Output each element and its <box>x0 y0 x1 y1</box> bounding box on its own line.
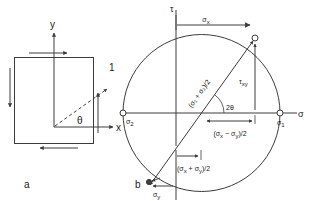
angle-theta-label: θ <box>77 115 83 126</box>
two-theta-arc <box>215 95 224 113</box>
direction-1-label: 1 <box>109 62 115 73</box>
axis-tau-label: τ <box>170 4 174 14</box>
point-stress-x-marker <box>252 35 258 41</box>
point-sigma1-label: σ1 <box>277 119 285 128</box>
point-sigma2-label: σ2 <box>126 118 134 127</box>
radius-label: (σx − σy)/2 <box>213 130 246 139</box>
axis-x-label: x <box>116 122 121 133</box>
mean-stress-label: (σ₁ + σ₂)/2 <box>187 78 212 109</box>
two-theta-label: 2θ <box>226 104 234 111</box>
panel-b-caption: b <box>135 179 141 190</box>
point-sigma2-marker <box>120 110 126 116</box>
axis-y-label: y <box>50 19 55 30</box>
point-sigma1-marker <box>277 110 283 116</box>
sigma-y-label: σy <box>153 191 160 200</box>
center-label: (σx + σy)/2 <box>177 165 210 174</box>
figure-canvas: y x θ 1 a τ σ σ2 σ1 <box>0 0 311 201</box>
sigma-y-pointer-arrow <box>152 178 160 181</box>
axis-sigma-label: σ <box>298 109 304 119</box>
panel-b-group: τ σ σ2 σ1 σx τxy (σ₁ + σ₂)/2 2θ <box>120 4 304 200</box>
stress-analysis-figure: y x θ 1 a τ σ σ2 σ1 <box>0 0 311 201</box>
panel-a-caption: a <box>24 179 30 190</box>
panel-a-group: y x θ 1 a <box>10 19 121 190</box>
sigma-x-label: σx <box>202 16 209 25</box>
point-stress-y-marker <box>146 179 151 184</box>
tau-xy-label: τxy <box>239 78 248 87</box>
